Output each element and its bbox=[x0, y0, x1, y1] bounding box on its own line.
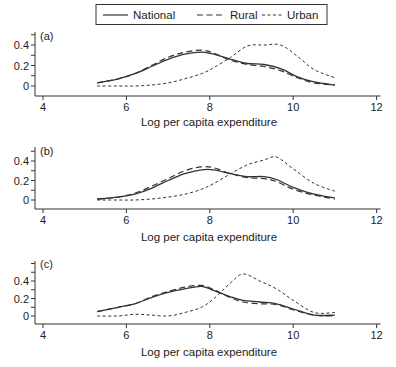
panel-b-label: (b) bbox=[40, 145, 53, 157]
y-tick-label: 0.4 bbox=[14, 155, 29, 167]
legend-label-rural: Rural bbox=[230, 9, 257, 21]
curve-urban bbox=[97, 274, 335, 316]
y-tick-label: 0.2 bbox=[14, 175, 29, 187]
panel-b-axes: 00.20.44681012 bbox=[14, 147, 383, 226]
y-tick-label: 0 bbox=[23, 310, 29, 322]
x-tick-label: 12 bbox=[370, 214, 382, 226]
y-tick-label: 0 bbox=[23, 80, 29, 92]
x-tick-label: 8 bbox=[207, 101, 213, 113]
panel-b-curves bbox=[97, 157, 335, 200]
panel-a-axes: 00.20.44681012 bbox=[14, 32, 383, 113]
curve-urban bbox=[97, 157, 335, 200]
x-tick-label: 4 bbox=[40, 214, 46, 226]
x-tick-label: 6 bbox=[123, 101, 129, 113]
x-tick-label: 10 bbox=[287, 101, 299, 113]
y-tick-label: 0.2 bbox=[14, 293, 29, 305]
x-tick-label: 12 bbox=[370, 329, 382, 341]
legend: National Rural Urban bbox=[96, 5, 327, 25]
curve-urban bbox=[97, 44, 335, 86]
x-tick-label: 4 bbox=[40, 101, 46, 113]
legend-label-urban: Urban bbox=[287, 9, 318, 21]
x-tick-label: 8 bbox=[207, 329, 213, 341]
x-tick-label: 6 bbox=[123, 329, 129, 341]
panel-c-curves bbox=[97, 274, 335, 316]
y-tick-label: 0.2 bbox=[14, 60, 29, 72]
x-tick-label: 6 bbox=[123, 214, 129, 226]
y-tick-label: 0.4 bbox=[14, 275, 29, 287]
panel-a-xlabel: Log per capita expenditure bbox=[141, 116, 277, 128]
panel-a-curves bbox=[97, 44, 335, 86]
x-tick-label: 10 bbox=[287, 214, 299, 226]
figure: National Rural Urban 00.20.44681012 (a) … bbox=[0, 0, 396, 367]
panel-c-axes: 00.20.44681012 bbox=[14, 261, 383, 341]
panel-a-label: (a) bbox=[40, 30, 53, 42]
panel-b-xlabel: Log per capita expenditure bbox=[141, 231, 277, 243]
panel-a: 00.20.44681012 (a) Log per capita expend… bbox=[14, 30, 383, 128]
y-tick-label: 0 bbox=[23, 194, 29, 206]
x-tick-label: 12 bbox=[370, 101, 382, 113]
x-tick-label: 8 bbox=[207, 214, 213, 226]
legend-label-national: National bbox=[133, 9, 175, 21]
panel-c-xlabel: Log per capita expenditure bbox=[141, 346, 277, 358]
panel-c: 00.20.44681012 (c) Log per capita expend… bbox=[14, 258, 383, 358]
x-tick-label: 4 bbox=[40, 329, 46, 341]
panel-b: 00.20.44681012 (b) Log per capita expend… bbox=[14, 145, 383, 243]
y-tick-label: 0.4 bbox=[14, 39, 29, 51]
panel-c-label: (c) bbox=[40, 258, 53, 270]
curve-rural bbox=[97, 285, 335, 316]
x-tick-label: 10 bbox=[287, 329, 299, 341]
